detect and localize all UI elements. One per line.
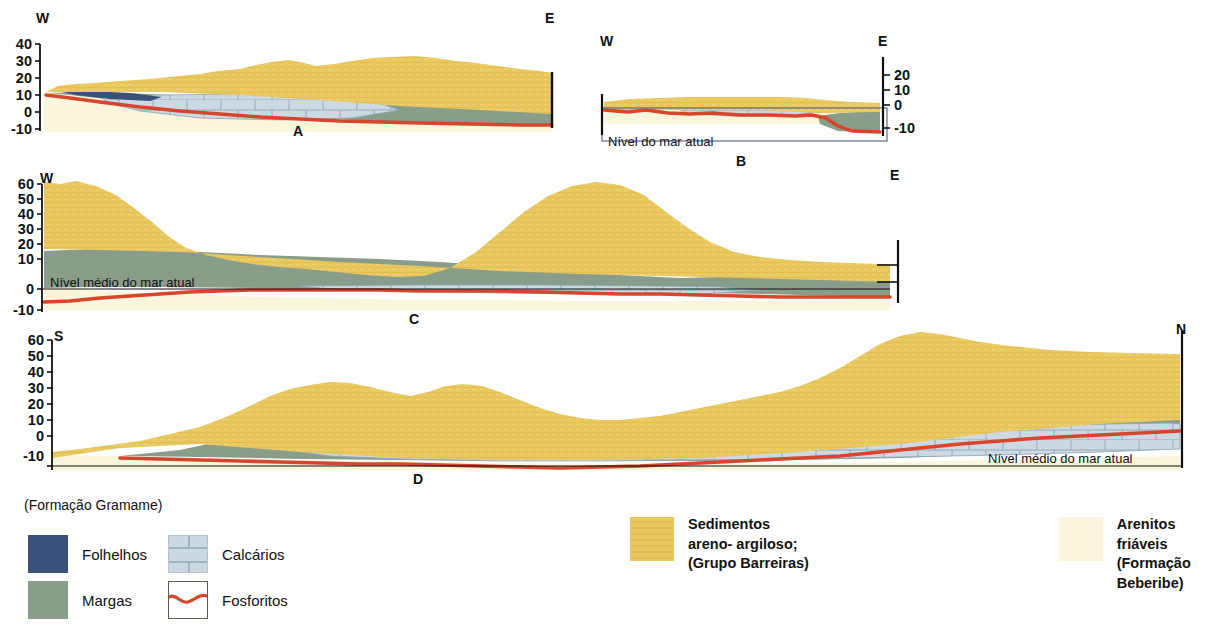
section-c-tick-neg10: -10 <box>13 302 34 318</box>
legend: (Formação Gramame) Folhelhos Margas <box>0 485 1208 640</box>
section-d-tick-0: 0 <box>36 428 44 444</box>
section-c-letter: C <box>409 311 419 327</box>
legend-label-beberibe: Arenitos friáveis (Formação Beberibe) <box>1117 515 1208 593</box>
legend-label-fosforitos: Fosforitos <box>222 592 288 609</box>
section-a-tick-10: 10 <box>16 87 32 103</box>
legend-item-folhelhos[interactable]: Folhelhos <box>28 531 168 577</box>
legend-item-beberibe[interactable]: Arenitos friáveis (Formação Beberibe) <box>1059 515 1208 593</box>
section-a-tick-neg10: -10 <box>11 121 32 137</box>
section-c-dir-west: W <box>40 170 54 186</box>
section-a-tick-20: 20 <box>16 70 32 86</box>
section-c-tick-40: 40 <box>18 206 34 222</box>
section-b-tick-neg10: -10 <box>894 120 915 136</box>
solid-swatch-sage-icon <box>28 581 68 619</box>
section-b-tick-20: 20 <box>894 67 910 83</box>
section-d-tick-40: 40 <box>28 364 44 380</box>
legend-item-barreiras[interactable]: Sedimentos areno- argiloso; (Grupo Barre… <box>630 515 817 593</box>
hatched-swatch-gold-icon <box>630 517 674 561</box>
section-d-sealevel-label: Nível médio do mar atual <box>988 451 1133 466</box>
section-a-dir-west: W <box>36 10 50 26</box>
section-c: Nível médio do mar atual 60 50 40 30 20 … <box>13 167 899 327</box>
geological-cross-sections-figure: 40 30 20 10 0 -10 W E A Nível do mar atu… <box>0 0 1208 640</box>
legend-label-calcarios: Calcários <box>222 546 285 563</box>
legend-label-folhelhos: Folhelhos <box>82 546 147 563</box>
section-c-tick-20: 20 <box>18 236 34 252</box>
section-c-tick-0: 0 <box>26 281 34 297</box>
section-b-tick-0: 0 <box>894 97 902 113</box>
section-d: Nível médio do mar atual 60 50 40 30 20 … <box>23 321 1186 487</box>
legend-right-group: Sedimentos areno- argiloso; (Grupo Barre… <box>630 515 1208 593</box>
section-d-tick-50: 50 <box>28 348 44 364</box>
legend-label-margas: Margas <box>82 592 132 609</box>
section-c-tick-10: 10 <box>18 251 34 267</box>
section-c-dir-east: E <box>890 167 899 183</box>
section-a: 40 30 20 10 0 -10 W E A <box>11 10 554 139</box>
section-a-tick-40: 40 <box>16 36 32 52</box>
solid-swatch-cream-icon <box>1059 517 1103 561</box>
section-d-tick-20: 20 <box>28 396 44 412</box>
section-b-letter: B <box>736 153 746 169</box>
section-d-tick-neg10: -10 <box>23 448 44 464</box>
legend-column-2: Calcários Fosforitos <box>168 531 288 623</box>
legend-label-beberibe-line2: (Formação Beberibe) <box>1117 555 1191 591</box>
legend-label-barreiras: Sedimentos areno- argiloso; (Grupo Barre… <box>688 515 817 574</box>
section-c-tick-30: 30 <box>18 221 34 237</box>
section-b-tick-10: 10 <box>894 82 910 98</box>
legend-left-group: Folhelhos Margas <box>28 531 288 623</box>
red-wavy-line-swatch-icon <box>168 581 208 619</box>
gramame-caption: (Formação Gramame) <box>24 497 162 513</box>
section-a-tick-30: 30 <box>16 53 32 69</box>
section-b-sealevel-label: Nível do mar atual <box>608 134 714 149</box>
legend-label-barreiras-line2: (Grupo Barreiras) <box>688 555 809 571</box>
section-d-tick-10: 10 <box>28 412 44 428</box>
section-c-tick-50: 50 <box>18 191 34 207</box>
section-b-dir-east: E <box>878 33 887 49</box>
section-d-dir-north: N <box>1176 321 1186 337</box>
legend-item-calcarios[interactable]: Calcários <box>168 531 288 577</box>
legend-label-beberibe-line1: Arenitos friáveis <box>1117 516 1176 552</box>
solid-swatch-navy-icon <box>28 535 68 573</box>
section-a-dir-east: E <box>545 10 554 26</box>
section-a-letter: A <box>293 123 303 139</box>
section-a-tick-0: 0 <box>24 104 32 120</box>
section-d-tick-60: 60 <box>28 332 44 348</box>
legend-item-fosforitos[interactable]: Fosforitos <box>168 577 288 623</box>
legend-item-margas[interactable]: Margas <box>28 577 168 623</box>
section-c-sealevel-label: Nível médio do mar atual <box>50 275 195 290</box>
section-c-tick-60: 60 <box>18 176 34 192</box>
brick-pattern-swatch-icon <box>168 535 208 573</box>
legend-column-1: Folhelhos Margas <box>28 531 168 623</box>
section-b: Nível do mar atual 20 10 0 -10 W E B <box>600 33 915 169</box>
section-d-dir-south: S <box>54 328 63 344</box>
section-b-dir-west: W <box>600 33 614 49</box>
legend-label-barreiras-line1: Sedimentos areno- argiloso; <box>688 516 798 552</box>
section-d-tick-30: 30 <box>28 380 44 396</box>
